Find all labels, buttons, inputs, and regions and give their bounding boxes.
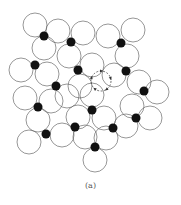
lattice-dot xyxy=(74,66,83,75)
lattice-dot xyxy=(34,103,43,112)
atom-circle xyxy=(121,18,145,42)
atom-circle xyxy=(96,24,120,48)
lattice-dot xyxy=(31,61,40,70)
lattice-dots xyxy=(31,32,149,152)
atom-circle xyxy=(9,58,33,82)
atom-circle xyxy=(46,19,70,43)
lattice-dot xyxy=(88,106,97,115)
crystal-lattice-diagram xyxy=(0,0,181,205)
lattice-dot xyxy=(117,39,126,48)
lattice-dot xyxy=(52,82,61,91)
lattice-dot xyxy=(91,143,100,152)
lattice-dot xyxy=(67,38,76,47)
figure-caption: (a) xyxy=(0,181,181,190)
atom-circle xyxy=(80,53,104,77)
lattice-dot xyxy=(109,124,118,133)
rotation-indicator-icon xyxy=(90,70,112,92)
atom-circle xyxy=(138,106,162,130)
atom-circle xyxy=(115,44,139,68)
atom-circle xyxy=(17,130,41,154)
atom-circle xyxy=(83,148,107,172)
lattice-dot xyxy=(132,114,141,123)
atom-circle xyxy=(50,123,74,147)
lattice-dot xyxy=(140,87,149,96)
atom-circle xyxy=(145,80,169,104)
atom-circle xyxy=(13,86,37,110)
atom-circle xyxy=(26,108,50,132)
atom-circle xyxy=(39,89,63,113)
lattice-dot xyxy=(42,130,51,139)
atom-circle xyxy=(57,44,81,68)
lattice-dot xyxy=(71,123,80,132)
lattice-dot xyxy=(40,32,49,41)
lattice-dot xyxy=(122,67,131,76)
atom-circle xyxy=(102,63,126,87)
